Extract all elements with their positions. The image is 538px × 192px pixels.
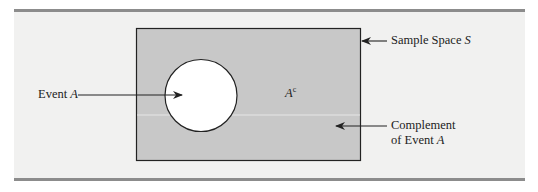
complement-callout-line2: of Event A <box>391 133 456 148</box>
sample-space-label-text: Sample Space <box>391 33 465 47</box>
complement-callout-label: Complement of Event A <box>391 118 456 148</box>
complement-callout-line1: Complement <box>391 118 456 133</box>
complement-region-var: A <box>285 86 293 100</box>
event-a-label: Event A <box>38 87 78 102</box>
event-a-label-text: Event <box>38 87 70 101</box>
complement-callout-line2-text: of Event <box>391 133 437 147</box>
sample-space-label-var: S <box>465 33 471 47</box>
complement-region-sup: c <box>293 85 297 94</box>
event-a-label-var: A <box>70 87 78 101</box>
complement-callout-line2-var: A <box>437 133 445 147</box>
complement-region-label: Ac <box>285 86 296 101</box>
sample-space-label: Sample Space S <box>391 33 471 48</box>
venn-diagram <box>0 0 538 192</box>
